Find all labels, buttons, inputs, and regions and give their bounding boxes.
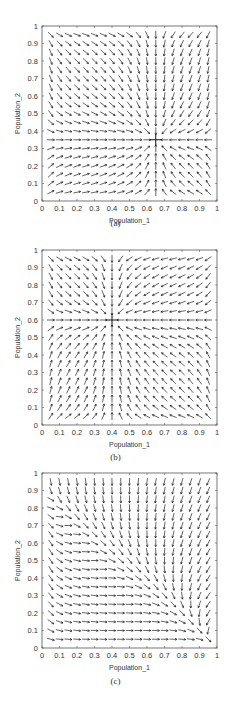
y-tick-label: 0 [34,644,38,653]
x-tick-label: 0.9 [194,651,204,660]
y-axis-label: Population_2 [14,540,22,581]
y-tick-label: 1 [34,469,38,478]
x-tick-label: 0.6 [142,651,152,660]
y-tick-label: 0.1 [28,626,38,635]
y-tick-label: 0.3 [28,591,38,600]
x-tick-label: 0.1 [54,651,64,660]
panel-c: 00.10.20.30.40.50.60.70.80.9100.10.20.30… [0,0,231,702]
y-tick-label: 0.2 [28,609,38,618]
y-tick-label: 0.9 [28,486,38,495]
x-tick-label: 0.5 [124,651,134,660]
y-tick-label: 0.8 [28,504,38,513]
y-tick-label: 0.6 [28,539,38,548]
vector-field [47,478,211,642]
x-tick-label: 0.7 [159,651,169,660]
y-tick-label: 0.4 [28,574,38,583]
quiver-plot-c: 00.10.20.30.40.50.60.70.80.9100.10.20.30… [0,0,231,702]
x-tick-label: 0.2 [72,651,82,660]
x-tick-label: 0 [40,651,44,660]
x-axis-label: Population_1 [109,664,150,672]
x-tick-label: 0.4 [107,651,117,660]
x-tick-label: 0.3 [89,651,99,660]
x-tick-label: 0.8 [177,651,187,660]
y-tick-label: 0.7 [28,521,38,530]
caption-c: (c) [0,676,231,686]
x-tick-label: 1 [215,651,219,660]
y-tick-label: 0.5 [28,556,38,565]
